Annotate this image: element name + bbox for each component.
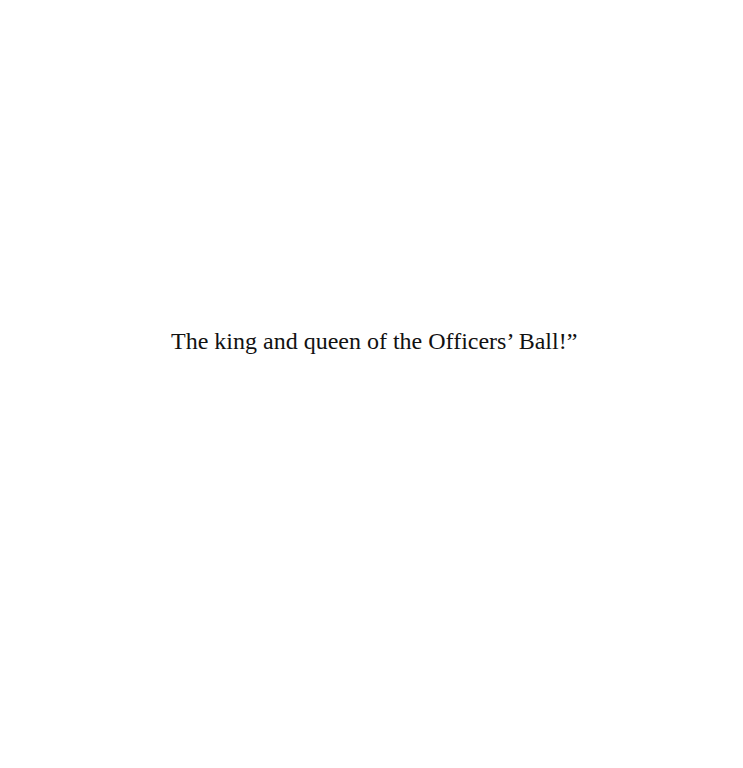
text-line: The king and queen of the Officers’ Ball… bbox=[171, 326, 577, 356]
document-page: The king and queen of the Officers’ Ball… bbox=[0, 0, 743, 768]
